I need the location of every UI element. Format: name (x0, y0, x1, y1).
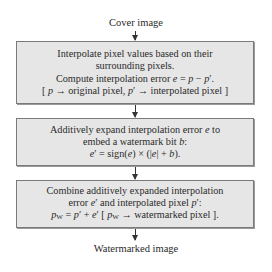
step-1-line-1: Interpolate pixel values based on their (17, 48, 253, 60)
arrow-down-icon (135, 167, 136, 179)
step-1-line-2: surrounding pixels. (17, 60, 253, 72)
step-1-line-3: Compute interpolation error e = p − p′. (17, 73, 253, 85)
output-label: Watermarked image (0, 243, 272, 255)
arrow-down-icon (135, 105, 136, 117)
input-label: Cover image (0, 17, 272, 29)
arrow-down-icon (135, 229, 136, 240)
step-1-line-4: [ p → original pixel, p′ → interpolated … (17, 85, 253, 97)
step-1-box: Interpolate pixel values based on their … (16, 41, 254, 104)
arrow-down-icon (135, 31, 136, 40)
step-2-box: Additively expand interpolation error e … (16, 118, 254, 166)
step-2-line-1: Additively expand interpolation error e … (17, 124, 253, 136)
step-3-line-1: Combine additively expanded interpolatio… (17, 185, 253, 197)
step-3-box: Combine additively expanded interpolatio… (16, 180, 254, 228)
step-3-line-2: error e′ and interpolated pixel p′: (17, 197, 253, 209)
step-2-line-3: e′ = sign(e) × (|e| + b). (17, 148, 253, 160)
step-3-line-3: pW = p′ + e′ [ pW → watermarked pixel ]. (17, 209, 253, 223)
step-2-line-2: embed a watermark bit b: (17, 136, 253, 148)
